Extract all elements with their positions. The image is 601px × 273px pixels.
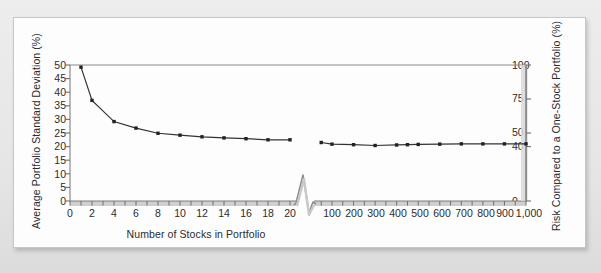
axis-break-zigzag-icon [294, 175, 316, 215]
data-series-layer [79, 65, 527, 147]
axes-layer [70, 65, 526, 206]
plot-canvas [0, 0, 601, 273]
chart-area: Average Portfolio Standard Deviation (%)… [0, 0, 601, 273]
ticks-layer [65, 65, 531, 206]
figure-root: Average Portfolio Standard Deviation (%)… [0, 0, 601, 273]
